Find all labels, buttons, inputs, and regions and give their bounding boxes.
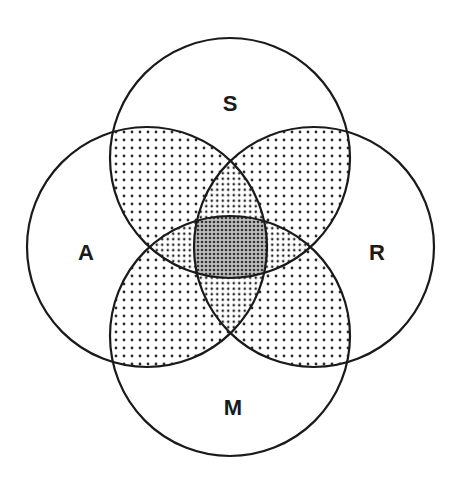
venn-diagram: S A R M (0, 0, 455, 484)
label-r: R (369, 240, 385, 265)
label-a: A (78, 240, 94, 265)
label-m: M (224, 395, 242, 420)
label-s: S (223, 91, 238, 116)
